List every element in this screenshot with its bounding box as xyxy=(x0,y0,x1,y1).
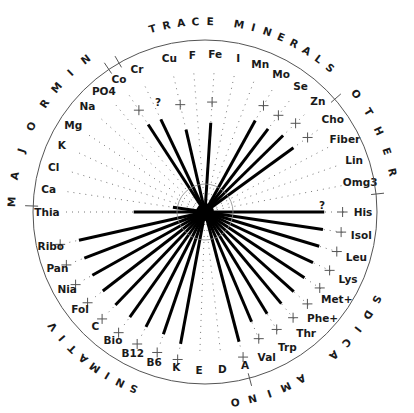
group-label-char: N xyxy=(113,376,126,391)
nutrient-label: E xyxy=(196,364,203,376)
nutrient-label: I xyxy=(236,52,240,64)
nutrient-label: Ribo xyxy=(38,240,64,252)
group-label-char: C xyxy=(340,336,354,350)
spoke-guide xyxy=(71,172,205,212)
group-label-char: R xyxy=(37,97,51,110)
spoke-cho xyxy=(205,148,293,212)
nutrient-label: B6 xyxy=(146,356,161,368)
nutrient-label: PO4 xyxy=(92,85,116,97)
nutrient-label: Mn xyxy=(251,58,269,70)
question-note: ? xyxy=(319,199,325,211)
spokes xyxy=(65,72,345,352)
nutrient-label: Bio xyxy=(104,334,123,346)
nutrient-label: Lys xyxy=(339,273,358,285)
group-label-char: I xyxy=(56,333,68,344)
group-label-char: M xyxy=(5,196,18,207)
group-label-char: O xyxy=(24,119,39,132)
group-label-char: A xyxy=(176,16,186,29)
spoke-co xyxy=(148,125,205,212)
nutrient-label: F xyxy=(189,49,196,61)
group-label-char: A xyxy=(294,372,308,387)
nutrient-label: Thia xyxy=(34,206,59,218)
spoke-mo xyxy=(205,121,255,212)
spoke-se xyxy=(205,129,268,212)
nutrient-label: Mg xyxy=(64,119,82,131)
nutrient-label: Fol xyxy=(71,303,89,315)
nutrient-label: Na xyxy=(79,100,95,112)
group-divider-tick xyxy=(371,193,384,194)
nutrient-label: Fiber xyxy=(330,133,361,145)
group-label-char: R xyxy=(386,167,399,177)
group-label-char: I xyxy=(266,388,274,401)
nutrient-label: C xyxy=(92,320,100,332)
group-label-char: D xyxy=(361,308,376,322)
nutrient-label: Fe xyxy=(208,48,222,60)
nutrient-label: Se xyxy=(293,80,308,92)
group-label-char: N xyxy=(261,24,273,38)
spoke-zn xyxy=(205,136,283,212)
nutrient-label: Ca xyxy=(41,183,56,195)
group-label-char: V xyxy=(45,319,60,333)
group-label-char: R xyxy=(161,18,171,31)
nutrient-label: Nia xyxy=(57,283,76,295)
nutrient-label: Cho xyxy=(322,113,344,125)
group-label-char: M xyxy=(87,360,102,376)
nutrient-label: Cu xyxy=(162,52,177,64)
nutrient-label: Trp xyxy=(278,341,297,353)
group-label-char: C xyxy=(191,15,200,27)
group-label-char: A xyxy=(326,348,341,363)
nutrient-label: Omg3 xyxy=(343,176,378,188)
group-label-char: A xyxy=(300,43,314,58)
group-label-char: M xyxy=(279,380,294,395)
nutrient-label: Pan xyxy=(46,262,68,274)
group-label-char: M xyxy=(48,79,64,95)
group-label-char: S xyxy=(324,61,338,75)
group-label-char: I xyxy=(102,370,112,382)
group-label-char: N xyxy=(247,392,258,406)
group-label-char: T xyxy=(65,342,79,356)
nutrient-label: His xyxy=(354,206,373,218)
nutrient-label: D xyxy=(218,363,227,375)
group-label-char: O xyxy=(349,87,364,101)
group-label-char: M xyxy=(233,17,245,31)
nutrient-label: Lin xyxy=(345,154,363,166)
nutrient-label: Thr xyxy=(296,327,317,339)
nutrient-label: Phe+ xyxy=(307,312,338,324)
nutrient-label: Co xyxy=(111,73,126,85)
nutrient-radial-chart: ThiaCaClKMgNaPO4CoCrCuFFeIMnMoSeZnChoFib… xyxy=(0,0,414,413)
group-label-char: N xyxy=(78,52,92,67)
nutrient-label: Isol xyxy=(351,229,372,241)
nutrient-label: Val xyxy=(258,351,276,363)
group-label-char: H xyxy=(372,124,387,137)
group-label-char: I xyxy=(65,67,76,78)
group-label-char: S xyxy=(370,294,384,306)
spoke-fe xyxy=(205,123,211,212)
center-hub xyxy=(196,203,214,221)
group-label-char: J xyxy=(14,147,27,155)
group-label-char: I xyxy=(250,21,257,34)
group-label-char: I xyxy=(352,324,364,334)
group-label-char: E xyxy=(275,30,286,44)
nutrient-label: K xyxy=(58,139,67,151)
group-label-char: O xyxy=(230,396,241,409)
nutrient-label: Leu xyxy=(346,251,367,263)
group-label-char: A xyxy=(8,170,21,181)
group-label-char: T xyxy=(362,105,376,118)
spoke-guide xyxy=(205,166,337,212)
nutrient-label: Met+ xyxy=(321,293,352,305)
nutrient-label: K xyxy=(172,361,181,373)
nutrient-label: Cl xyxy=(48,161,59,173)
group-label-char: S xyxy=(128,382,140,396)
group-label-char: E xyxy=(380,146,394,157)
nutrient-label: Zn xyxy=(310,95,325,107)
group-divider-tick xyxy=(248,373,251,386)
group-label-char: R xyxy=(288,36,301,50)
nutrient-label: Mo xyxy=(272,68,290,80)
question-note: ? xyxy=(155,96,161,108)
nutrient-label: A xyxy=(241,359,250,371)
nutrient-label: B12 xyxy=(121,347,144,359)
group-label-char: L xyxy=(313,52,326,66)
group-label-char: E xyxy=(206,15,214,27)
nutrient-label: Cr xyxy=(131,63,145,75)
group-label-char: A xyxy=(75,351,90,366)
